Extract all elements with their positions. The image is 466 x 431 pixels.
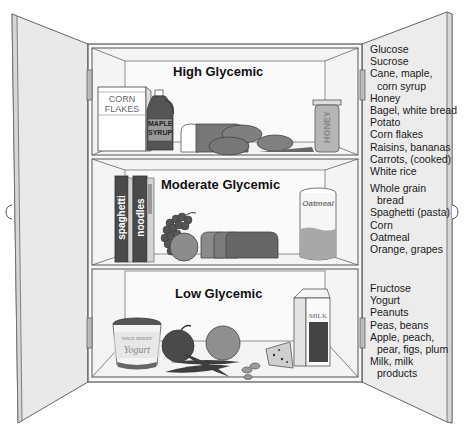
shelf-title-high: High Glycemic <box>173 64 263 79</box>
food-list-high: Glucose Sucrose Cane, maple,corn syrup H… <box>370 43 457 177</box>
yogurt-script-label: Yogurt <box>114 344 160 355</box>
corn-flakes-label-line2: FLAKES <box>100 104 144 114</box>
food-item: Corn flakes <box>370 128 457 140</box>
maple-syrup-label-line2: SYRUP <box>148 129 172 136</box>
shelf-title-moderate: Moderate Glycemic <box>161 177 280 192</box>
food-item: Potato <box>370 116 457 128</box>
sliced-bread-loaf-icon <box>201 232 278 258</box>
food-item: Peanuts <box>370 306 448 318</box>
food-item: Raisins, bananas <box>370 141 457 153</box>
food-item: Carrots, (cooked) <box>370 153 457 165</box>
food-item: Cane, maple,corn syrup <box>370 67 457 91</box>
left-door <box>6 14 88 423</box>
food-item: Honey <box>370 92 457 104</box>
milk-carton-label: MILK <box>306 312 330 320</box>
food-item: Peas, beans <box>370 319 448 331</box>
food-item: White rice <box>370 165 457 177</box>
noodles-box-label: noodles <box>135 183 146 253</box>
food-item: Glucose <box>370 43 457 55</box>
oatmeal-canister-label: Oatmeal <box>300 199 336 208</box>
food-item: Oatmeal <box>370 231 450 243</box>
food-item: Sucrose <box>370 55 457 67</box>
left-door-knob-icon <box>6 205 12 219</box>
food-item: Bagel, white bread <box>370 104 457 116</box>
food-item: Apple, peach,pear, figs, plum <box>370 331 448 355</box>
shelf-title-low: Low Glycemic <box>175 286 262 301</box>
food-item: Milk, milkproducts <box>370 355 448 379</box>
right-door-knob-icon <box>452 205 458 219</box>
spaghetti-box-label: spaghetti <box>116 183 127 253</box>
food-item: Orange, grapes <box>370 243 450 255</box>
orange-icon <box>170 233 198 261</box>
honey-jar-label: HONEY <box>322 106 332 148</box>
corn-flakes-label-line1: CORN <box>102 94 142 104</box>
milk-carton-icon <box>294 289 330 366</box>
peach-icon <box>206 326 240 360</box>
food-list-moderate: Whole grainbread Spaghetti (pasta) Corn … <box>370 182 450 255</box>
maple-syrup-label-line1: MAPLE <box>148 120 172 127</box>
food-item: Yogurt <box>370 294 448 306</box>
food-item: Fructose <box>370 282 448 294</box>
food-item: Whole grainbread <box>370 182 450 206</box>
yogurt-top-label: WILD BERRY <box>114 336 160 341</box>
food-list-low: Fructose Yogurt Peanuts Peas, beans Appl… <box>370 282 448 380</box>
food-item: Spaghetti (pasta) <box>370 206 450 218</box>
food-item: Corn <box>370 219 450 231</box>
